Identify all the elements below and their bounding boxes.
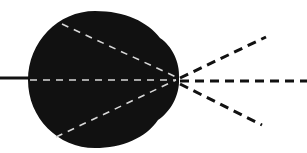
- ray-diagram: [0, 0, 307, 153]
